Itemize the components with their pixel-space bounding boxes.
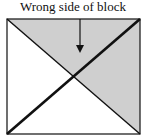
quilt-block-diagram — [0, 0, 146, 138]
